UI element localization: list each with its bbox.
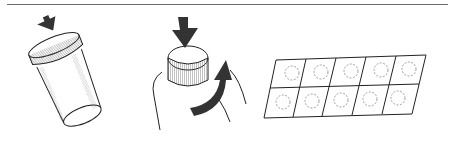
bottle-cap-icon [168,46,208,86]
blister-pack-icon [264,55,426,118]
press-down-arrow-icon [36,13,61,36]
step-3-blister-pack-illustration [262,0,432,163]
bottle-icon [26,28,111,134]
step-2-press-twist-illustration [140,0,260,163]
press-down-arrow-icon [172,17,198,48]
step-1-bottle-illustration [20,0,120,163]
hand-outline [153,72,162,130]
